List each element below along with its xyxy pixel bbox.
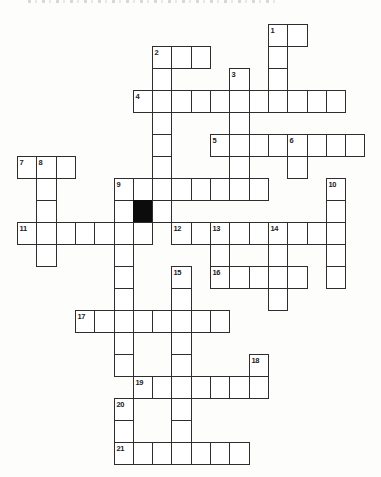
grid-cell[interactable] (249, 90, 269, 113)
grid-cell[interactable] (152, 442, 172, 465)
grid-cell[interactable] (268, 46, 288, 69)
grid-cell[interactable] (268, 244, 288, 267)
grid-cell[interactable]: 16 (210, 266, 230, 289)
grid-cell[interactable] (210, 244, 230, 267)
grid-cell[interactable] (326, 200, 346, 223)
grid-cell[interactable] (210, 90, 230, 113)
grid-cell[interactable]: 4 (133, 90, 153, 113)
grid-cell[interactable] (152, 376, 172, 399)
grid-cell[interactable] (249, 178, 269, 201)
grid-cell[interactable] (210, 376, 230, 399)
grid-cell[interactable] (152, 178, 172, 201)
grid-cell[interactable]: 10 (326, 178, 346, 201)
grid-cell[interactable]: 12 (171, 222, 192, 245)
grid-cell[interactable] (229, 178, 250, 201)
grid-cell[interactable] (171, 310, 192, 333)
grid-cell[interactable] (229, 134, 250, 157)
grid-cell[interactable] (171, 398, 192, 421)
grid-cell[interactable] (191, 376, 211, 399)
grid-cell[interactable] (152, 112, 172, 135)
grid-cell[interactable] (249, 376, 269, 399)
grid-cell[interactable] (249, 134, 269, 157)
grid-cell[interactable] (114, 354, 134, 377)
grid-cell[interactable] (152, 156, 172, 179)
grid-cell[interactable] (268, 90, 288, 113)
grid-cell[interactable] (191, 310, 211, 333)
grid-cell[interactable]: 7 (17, 156, 37, 179)
grid-cell[interactable] (326, 266, 346, 289)
grid-cell[interactable]: 1 (268, 24, 288, 47)
grid-cell[interactable] (56, 222, 76, 245)
grid-cell[interactable]: 2 (152, 46, 172, 69)
grid-cell[interactable] (229, 112, 250, 135)
grid-cell[interactable]: 8 (36, 156, 57, 179)
grid-cell[interactable] (210, 310, 230, 333)
grid-cell[interactable] (229, 222, 250, 245)
grid-cell[interactable] (94, 222, 115, 245)
grid-cell[interactable] (229, 266, 250, 289)
grid-cell[interactable] (36, 200, 57, 223)
grid-cell[interactable] (171, 178, 192, 201)
grid-cell[interactable] (133, 442, 153, 465)
grid-cell[interactable] (114, 332, 134, 355)
grid-cell[interactable] (326, 90, 346, 113)
grid-cell[interactable]: 14 (268, 222, 288, 245)
grid-cell[interactable]: 13 (210, 222, 230, 245)
grid-cell[interactable] (133, 178, 153, 201)
grid-cell[interactable] (152, 200, 172, 223)
grid-cell[interactable] (287, 266, 308, 289)
grid-cell[interactable] (191, 442, 211, 465)
grid-cell[interactable] (210, 442, 230, 465)
grid-cell[interactable] (75, 222, 95, 245)
grid-cell[interactable] (287, 222, 308, 245)
grid-cell[interactable] (114, 244, 134, 267)
grid-cell[interactable] (210, 178, 230, 201)
grid-cell[interactable]: 19 (133, 376, 153, 399)
grid-cell[interactable] (152, 310, 172, 333)
grid-cell[interactable] (114, 200, 134, 223)
grid-cell[interactable] (191, 178, 211, 201)
grid-cell[interactable] (114, 288, 134, 311)
grid-cell[interactable] (268, 134, 288, 157)
grid-cell[interactable]: 18 (249, 354, 269, 377)
grid-cell[interactable] (268, 68, 288, 91)
grid-cell[interactable] (287, 24, 308, 47)
grid-cell[interactable]: 20 (114, 398, 134, 421)
grid-cell[interactable] (171, 288, 192, 311)
grid-cell[interactable] (171, 90, 192, 113)
grid-cell[interactable] (133, 222, 153, 245)
grid-cell[interactable] (114, 222, 134, 245)
grid-cell[interactable] (171, 332, 192, 355)
grid-cell[interactable] (307, 222, 327, 245)
grid-cell[interactable] (171, 420, 192, 443)
grid-cell[interactable] (36, 244, 57, 267)
grid-cell[interactable]: 6 (287, 134, 308, 157)
grid-cell[interactable] (133, 310, 153, 333)
grid-cell[interactable] (152, 90, 172, 113)
grid-cell[interactable] (171, 442, 192, 465)
grid-cell[interactable] (326, 134, 346, 157)
grid-cell[interactable] (152, 134, 172, 157)
grid-cell[interactable] (171, 354, 192, 377)
grid-cell[interactable] (345, 134, 365, 157)
grid-cell[interactable] (94, 310, 115, 333)
grid-cell[interactable] (191, 90, 211, 113)
grid-cell[interactable] (307, 90, 327, 113)
grid-cell[interactable]: 3 (229, 68, 250, 91)
grid-cell[interactable] (152, 68, 172, 91)
grid-cell[interactable]: 9 (114, 178, 134, 201)
grid-cell[interactable]: 11 (17, 222, 37, 245)
grid-cell[interactable] (114, 266, 134, 289)
grid-cell[interactable] (229, 376, 250, 399)
grid-cell[interactable] (326, 244, 346, 267)
grid-cell[interactable] (326, 222, 346, 245)
grid-cell[interactable] (229, 442, 250, 465)
grid-cell[interactable] (114, 420, 134, 443)
grid-cell[interactable] (287, 90, 308, 113)
grid-cell[interactable] (268, 266, 288, 289)
grid-cell[interactable] (287, 156, 308, 179)
grid-cell[interactable]: 17 (75, 310, 95, 333)
grid-cell[interactable] (268, 288, 288, 311)
grid-cell[interactable] (229, 156, 250, 179)
grid-cell[interactable] (171, 46, 192, 69)
